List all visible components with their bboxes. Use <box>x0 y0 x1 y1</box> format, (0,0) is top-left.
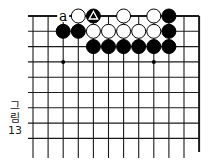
black-stone <box>132 40 146 54</box>
point-label-a: a <box>59 8 67 24</box>
star-point-icon <box>152 60 156 64</box>
white-stone <box>86 24 100 38</box>
board-grid <box>28 16 199 158</box>
caption-line-3: 13 <box>4 125 26 137</box>
black-stone <box>117 40 131 54</box>
black-stone <box>162 40 176 54</box>
black-stone <box>162 9 176 23</box>
white-stone <box>117 24 131 38</box>
black-stone <box>102 40 116 54</box>
black-stone <box>56 24 70 38</box>
labels-layer: a <box>57 8 69 24</box>
white-stone <box>132 24 146 38</box>
black-stone <box>86 40 100 54</box>
white-stone <box>71 9 85 23</box>
white-stone <box>147 9 161 23</box>
figure-caption: 그 림 13 <box>4 101 26 137</box>
go-board-diagram: a <box>0 0 212 160</box>
black-stone <box>71 24 85 38</box>
star-point-icon <box>61 60 65 64</box>
black-stone <box>162 24 176 38</box>
white-stone <box>117 9 131 23</box>
black-stone <box>147 40 161 54</box>
white-stone <box>147 24 161 38</box>
white-stone <box>102 24 116 38</box>
